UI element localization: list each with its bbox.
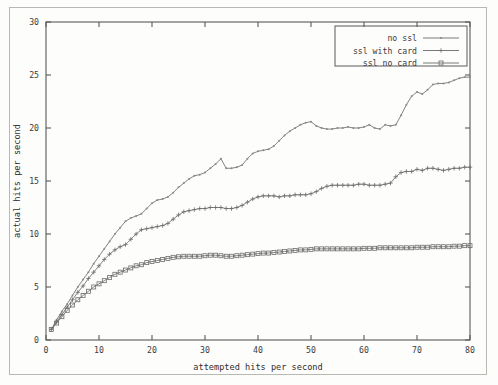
marker-dot — [342, 127, 344, 129]
marker-dot — [374, 127, 376, 129]
x-tick-label: 60 — [359, 345, 369, 355]
marker-dot — [231, 167, 233, 169]
x-tick-label: 10 — [94, 345, 104, 355]
marker-dot — [390, 125, 392, 127]
marker-dot — [363, 126, 365, 128]
marker-dot — [209, 167, 211, 169]
marker-dot — [220, 158, 222, 160]
plot-frame — [46, 22, 470, 340]
marker-dot — [411, 95, 413, 97]
marker-dot — [183, 182, 185, 184]
marker-dot — [273, 145, 275, 147]
marker-dot — [61, 310, 63, 312]
marker-dot — [437, 82, 439, 84]
marker-dot — [299, 124, 301, 126]
marker-dot — [119, 227, 121, 229]
marker-dot — [262, 149, 264, 151]
marker-dot — [416, 91, 418, 93]
x-tick-label: 80 — [465, 345, 475, 355]
marker-dot — [246, 158, 248, 160]
y-tick-label: 5 — [34, 282, 39, 292]
marker-dot — [151, 202, 153, 204]
marker-dot — [321, 127, 323, 129]
marker-dot — [93, 263, 95, 265]
marker-dot — [379, 128, 381, 130]
marker-dot — [421, 93, 423, 95]
marker-dot — [284, 134, 286, 136]
marker-dot — [140, 213, 142, 215]
x-tick-label: 0 — [44, 345, 49, 355]
marker-dot — [156, 199, 158, 201]
legend-label-0: no ssl — [387, 33, 417, 43]
marker-dot — [326, 128, 328, 130]
marker-dot — [236, 166, 238, 168]
marker-dot — [167, 196, 169, 198]
marker-dot — [172, 192, 174, 194]
marker-dot — [72, 294, 74, 296]
marker-dot — [453, 79, 455, 81]
marker-dot — [448, 81, 450, 83]
marker-dot — [188, 178, 190, 180]
marker-dot — [400, 114, 402, 116]
marker-dot — [193, 175, 195, 177]
chart-figure: 01020304050607080051015202530 no sslssl … — [0, 0, 498, 385]
x-tick-label: 50 — [306, 345, 316, 355]
marker-dot — [337, 127, 339, 129]
plot-svg: 01020304050607080051015202530 no sslssl … — [0, 0, 498, 385]
y-tick-label: 20 — [29, 123, 39, 133]
marker-dot — [135, 215, 137, 217]
marker-dot — [257, 150, 259, 152]
marker-dot — [464, 76, 466, 78]
legend-label-2: ssl no card — [363, 58, 417, 68]
marker-dot — [331, 128, 333, 130]
marker-dot — [395, 124, 397, 126]
legend-label-1: ssl with card — [353, 46, 417, 56]
marker-dot — [315, 125, 317, 127]
y-tick-label: 10 — [29, 229, 39, 239]
marker-dot — [125, 220, 127, 222]
marker-dot — [405, 104, 407, 106]
marker-dot — [98, 255, 100, 257]
marker-dot — [241, 164, 243, 166]
marker-dot — [268, 148, 270, 150]
marker-dot — [443, 82, 445, 84]
y-axis-label: actual hits per second — [12, 124, 22, 238]
marker-dot — [469, 76, 471, 78]
marker-dot — [109, 240, 111, 242]
x-axis-label: attempted hits per second — [193, 362, 322, 372]
series-line — [51, 77, 470, 329]
marker-dot — [204, 172, 206, 174]
marker-dot — [162, 198, 164, 200]
marker-dot — [384, 124, 386, 126]
x-tick-label: 30 — [200, 345, 210, 355]
marker-dot — [66, 303, 68, 305]
marker-dot — [289, 130, 291, 132]
marker-dot — [278, 140, 280, 142]
marker-dot — [146, 208, 148, 210]
x-tick-label: 40 — [253, 345, 263, 355]
plot-frame-layer — [46, 22, 470, 340]
x-tick-label: 20 — [147, 345, 157, 355]
marker-dot — [440, 37, 442, 39]
marker-dot — [130, 217, 132, 219]
y-tick-label: 25 — [29, 70, 39, 80]
marker-dot — [87, 271, 89, 273]
series-line — [51, 167, 470, 329]
marker-dot — [225, 167, 227, 169]
marker-dot — [114, 233, 116, 235]
marker-dot — [252, 152, 254, 154]
marker-dot — [305, 122, 307, 124]
marker-dot — [294, 127, 296, 129]
series-ssl-no-card — [49, 244, 472, 332]
marker-dot — [82, 279, 84, 281]
screenshot-page: 01020304050607080051015202530 no sslssl … — [0, 0, 498, 385]
marker-dot — [310, 121, 312, 123]
y-tick-label: 0 — [34, 335, 39, 345]
legend: no sslssl with cardssl no card — [335, 26, 467, 68]
marker-dot — [368, 124, 370, 126]
marker-dot — [358, 127, 360, 129]
marker-dot — [432, 84, 434, 86]
y-tick-label: 15 — [29, 176, 39, 186]
marker-dot — [215, 163, 217, 165]
x-tick-label: 70 — [412, 345, 422, 355]
